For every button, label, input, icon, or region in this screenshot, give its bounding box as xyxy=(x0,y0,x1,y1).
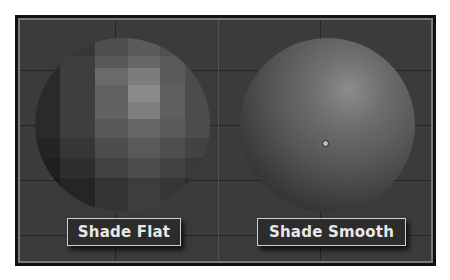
3d-viewport[interactable]: Shade Flat Shade Smooth xyxy=(18,18,433,263)
origin-dot-icon xyxy=(322,140,329,147)
viewport-frame: Shade Flat Shade Smooth xyxy=(15,15,436,266)
shade-flat-label[interactable]: Shade Flat xyxy=(67,218,181,246)
shade-smooth-label[interactable]: Shade Smooth xyxy=(257,218,406,246)
flat-shaded-sphere[interactable] xyxy=(35,38,210,212)
grid-line xyxy=(218,20,219,261)
smooth-shaded-sphere[interactable] xyxy=(240,38,415,212)
